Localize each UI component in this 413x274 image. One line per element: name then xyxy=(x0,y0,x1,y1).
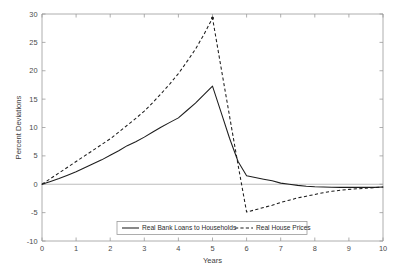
x-tick-label: 1 xyxy=(74,244,78,253)
peak-marker-dot xyxy=(211,16,214,19)
x-tick-label: 8 xyxy=(313,244,317,253)
y-tick-label: 10 xyxy=(29,123,37,132)
y-axis-label: Percent Deviations xyxy=(14,95,23,159)
x-tick-label: 6 xyxy=(245,244,249,253)
x-tick-label: 2 xyxy=(108,244,112,253)
y-tick-label: 30 xyxy=(29,10,37,19)
y-tick-label: -5 xyxy=(31,208,38,217)
chart-figure: 012345678910 -10-5051015202530 Years Per… xyxy=(0,0,413,274)
y-tick-label: 15 xyxy=(29,95,37,104)
x-tick-label: 10 xyxy=(379,244,387,253)
x-tick-label: 5 xyxy=(210,244,214,253)
y-tick-label: 20 xyxy=(29,66,37,75)
line-chart: 012345678910 -10-5051015202530 Years Per… xyxy=(0,0,413,274)
x-tick-label: 7 xyxy=(279,244,283,253)
y-tick-label: 5 xyxy=(33,151,37,160)
x-tick-label: 3 xyxy=(142,244,146,253)
y-tick-label: 25 xyxy=(29,38,37,47)
x-tick-label: 9 xyxy=(347,244,351,253)
x-axis-label: Years xyxy=(203,256,222,265)
legend-label-real-bank-loans: Real Bank Loans to Households xyxy=(142,224,237,231)
y-tick-label: -10 xyxy=(27,237,38,246)
x-tick-label: 4 xyxy=(176,244,180,253)
chart-legend: Real Bank Loans to Households Real House… xyxy=(117,222,311,235)
legend-label-real-house-prices: Real House Prices xyxy=(256,224,311,231)
y-tick-label: 0 xyxy=(33,180,37,189)
x-tick-label: 0 xyxy=(40,244,44,253)
